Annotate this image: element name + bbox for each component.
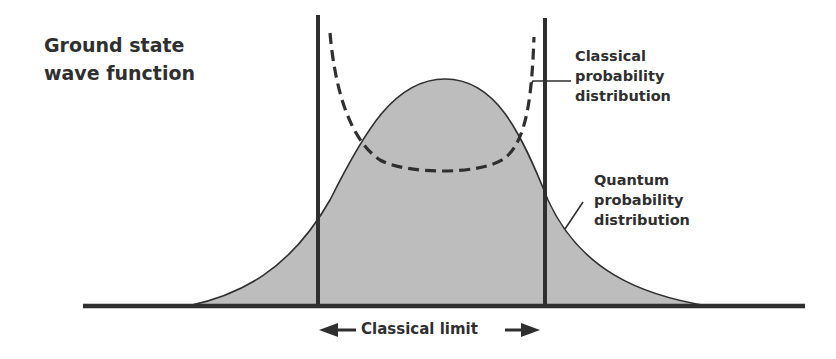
classical-leader-line: [531, 81, 571, 84]
quantum-distribution-label: Quantum probability distribution: [594, 170, 690, 230]
right-arrow-icon: [505, 323, 540, 337]
left-arrow-icon: [319, 323, 356, 337]
classical-limit-label: Classical limit: [361, 319, 478, 339]
classical-distribution-label: Classical probability distribution: [575, 46, 671, 106]
classical-label-line-2: probability: [575, 66, 671, 86]
quantum-label-line-1: Quantum: [594, 170, 690, 190]
quantum-label-line-3: distribution: [594, 210, 690, 230]
title-line-1: Ground state: [44, 31, 195, 59]
diagram-title: Ground state wave function: [44, 31, 195, 87]
classical-label-line-3: distribution: [575, 86, 671, 106]
title-line-2: wave function: [44, 59, 195, 87]
quantum-leader-line: [565, 202, 583, 229]
classical-label-line-1: Classical: [575, 46, 671, 66]
quantum-label-line-2: probability: [594, 190, 690, 210]
